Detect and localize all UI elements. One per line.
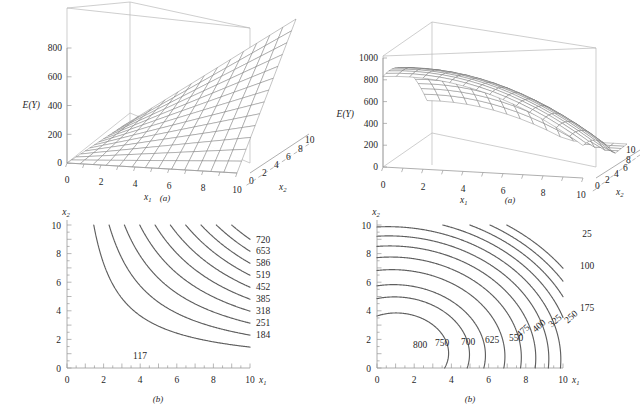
y-tick-label: 8 bbox=[56, 249, 61, 259]
x2-tick-label: 8 bbox=[626, 155, 631, 165]
y-axis-title: x2 bbox=[371, 207, 380, 218]
x2-tick-label: 10 bbox=[626, 145, 636, 155]
contour-axes-left bbox=[67, 220, 250, 368]
x2-tick-label: 0 bbox=[249, 176, 254, 186]
contour-label: 800 bbox=[413, 340, 428, 350]
x1-tick-label: 2 bbox=[99, 177, 104, 187]
contour-label: 653 bbox=[256, 246, 271, 256]
panel-caption: (b) bbox=[465, 394, 476, 404]
contour-label: 750 bbox=[435, 338, 450, 348]
surface-mesh bbox=[67, 19, 296, 173]
x1-tick-label: 0 bbox=[381, 180, 386, 190]
contour-label: 100 bbox=[580, 261, 595, 271]
x1-tick-label: 10 bbox=[576, 190, 586, 200]
contour-label: 250 bbox=[562, 308, 579, 325]
y-tick-label: 0 bbox=[366, 364, 371, 374]
contour-label: 385 bbox=[256, 294, 271, 304]
x1-tick-label: 8 bbox=[541, 188, 546, 198]
surface-mesh bbox=[383, 68, 627, 153]
x-tick-label: 0 bbox=[65, 375, 70, 385]
x-tick-label: 2 bbox=[101, 375, 106, 385]
panel-caption: (a) bbox=[160, 193, 171, 203]
x2-tick-label: 2 bbox=[605, 175, 610, 185]
x-tick-label: 8 bbox=[211, 375, 216, 385]
contour-labels: 184251318385452519586653720117 bbox=[133, 235, 270, 362]
z-tick-label: 0 bbox=[57, 158, 62, 168]
figure-root: 0 200 400 600 800 E(Y) 0 2 4 6 8 10 x1 bbox=[0, 0, 641, 406]
y-tick-label: 4 bbox=[366, 306, 371, 316]
contour-label: 117 bbox=[133, 351, 147, 361]
panel-contour-right: 0 2 4 6 8 10 x2 0 2 4 6 8 10 x1 80075070… bbox=[320, 203, 641, 406]
x-tick-label: 6 bbox=[174, 375, 179, 385]
x2-tick-label: 0 bbox=[595, 181, 600, 191]
x-tick-label: 4 bbox=[449, 375, 454, 385]
z-tick-label: 1000 bbox=[359, 53, 378, 63]
contour-label: 25 bbox=[582, 229, 592, 239]
contour-label: 318 bbox=[256, 306, 271, 316]
contour-label: 175 bbox=[580, 303, 595, 313]
panel-caption: (b) bbox=[153, 394, 164, 404]
z-axis-title: E(Y) bbox=[336, 109, 354, 120]
x-tick-label: 8 bbox=[523, 375, 528, 385]
z-tick-label: 800 bbox=[48, 43, 63, 53]
x1-tick-label: 2 bbox=[421, 182, 426, 192]
contour-label: 625 bbox=[485, 335, 500, 345]
x-tick-label: 10 bbox=[245, 375, 255, 385]
x1-tick-label: 4 bbox=[461, 184, 466, 194]
z-tick-label: 400 bbox=[364, 119, 379, 129]
z-axis-title: E(Y) bbox=[22, 100, 40, 111]
z-axis-left bbox=[67, 48, 72, 163]
y-tick-label: 6 bbox=[366, 278, 371, 288]
panel-contour-left: 0 2 4 6 8 10 x2 0 2 4 6 8 10 x1 18425131… bbox=[0, 203, 320, 406]
x1-tick-label: 10 bbox=[232, 185, 242, 195]
x2-tick-label: 4 bbox=[614, 169, 619, 179]
x2-axis-title: x2 bbox=[615, 187, 624, 198]
y-axis-title: x2 bbox=[61, 207, 70, 218]
contour-label: 251 bbox=[256, 318, 271, 328]
y-tick-label: 0 bbox=[56, 364, 61, 374]
x2-tick-label: 10 bbox=[305, 135, 315, 145]
contour-label: 184 bbox=[256, 330, 271, 340]
x-tick-label: 6 bbox=[486, 375, 491, 385]
z-tick-label: 0 bbox=[373, 162, 378, 172]
x-tick-label: 10 bbox=[558, 375, 568, 385]
contour-label: 586 bbox=[256, 258, 271, 268]
x-tick-label: 0 bbox=[375, 375, 380, 385]
x-tick-label: 4 bbox=[138, 375, 143, 385]
z-tick-label: 400 bbox=[48, 101, 63, 111]
z-tick-label: 800 bbox=[364, 75, 379, 85]
x-tick-label: 2 bbox=[412, 375, 417, 385]
x2-tick-label: 4 bbox=[274, 160, 279, 170]
x2-tick-label: 8 bbox=[298, 144, 303, 154]
x1-tick-label: 0 bbox=[65, 175, 70, 185]
contour-label: 519 bbox=[256, 270, 271, 280]
x1-tick-label: 6 bbox=[167, 181, 172, 191]
z-tick-label: 600 bbox=[364, 97, 379, 107]
x-axis-title: x1 bbox=[258, 375, 267, 386]
contour-label: 452 bbox=[256, 282, 271, 292]
x2-tick-label: 2 bbox=[262, 168, 267, 178]
panel-surface-right: 0 200 400 600 800 1000 E(Y) 0 2 4 6 8 10… bbox=[320, 0, 641, 203]
x1-axis-title: x1 bbox=[143, 192, 152, 203]
z-tick-label: 200 bbox=[364, 140, 379, 150]
z-tick-label: 600 bbox=[48, 72, 63, 82]
y-tick-label: 2 bbox=[56, 335, 61, 345]
y-tick-label: 4 bbox=[56, 306, 61, 316]
x1-tick-label: 8 bbox=[201, 183, 206, 193]
y-tick-label: 2 bbox=[366, 335, 371, 345]
x2-tick-label: 6 bbox=[286, 152, 291, 162]
y-tick-label: 10 bbox=[52, 221, 62, 231]
contour-label: 720 bbox=[256, 235, 271, 245]
x1-axis-right bbox=[382, 167, 583, 182]
x-axis-title: x1 bbox=[571, 375, 580, 386]
z-tick-label: 200 bbox=[48, 130, 63, 140]
x1-tick-label: 4 bbox=[133, 179, 138, 189]
y-tick-label: 6 bbox=[56, 278, 61, 288]
contour-label: 700 bbox=[461, 337, 476, 347]
y-tick-label: 10 bbox=[362, 221, 372, 231]
y-tick-label: 8 bbox=[366, 249, 371, 259]
panel-surface-left: 0 200 400 600 800 E(Y) 0 2 4 6 8 10 x1 bbox=[0, 0, 320, 203]
contour-lines bbox=[94, 225, 250, 347]
x2-axis-title: x2 bbox=[278, 182, 287, 193]
